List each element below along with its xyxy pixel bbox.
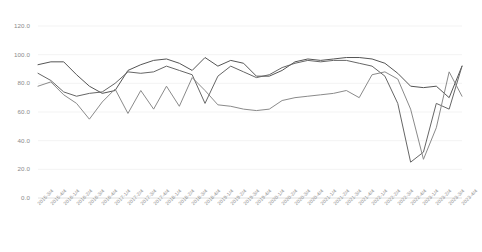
gridlines-group xyxy=(38,26,462,198)
y-axis-tick-label: 0.0 xyxy=(0,194,30,201)
y-axis-tick-label: 40.0 xyxy=(0,137,30,144)
series-line-series-2 xyxy=(38,60,462,162)
y-axis-tick-label: 80.0 xyxy=(0,79,30,86)
chart-plot-area xyxy=(0,0,482,252)
y-axis-tick-label: 60.0 xyxy=(0,108,30,115)
chart-container: 0.020.040.060.080.0100.0120.0 2015-3/420… xyxy=(0,0,482,252)
y-axis-tick-label: 20.0 xyxy=(0,165,30,172)
series-line-series-3 xyxy=(38,72,462,159)
y-axis-tick-label: 100.0 xyxy=(0,51,30,58)
series-group xyxy=(38,58,462,163)
y-axis-tick-label: 120.0 xyxy=(0,22,30,29)
